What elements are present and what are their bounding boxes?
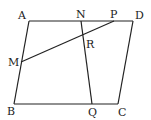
- geometry-diagram: A N P D R M B Q C: [0, 0, 151, 120]
- label-m: M: [8, 56, 19, 69]
- label-a: A: [17, 9, 27, 22]
- label-r: R: [86, 38, 95, 51]
- label-p: P: [110, 8, 118, 21]
- parallelogram-abcd: [14, 21, 133, 104]
- segment-dc: [118, 21, 133, 104]
- label-n: N: [76, 8, 86, 21]
- segment-mp: [21, 21, 114, 62]
- label-b: B: [7, 105, 15, 118]
- label-d: D: [135, 9, 144, 22]
- label-c: C: [118, 106, 126, 119]
- label-q: Q: [88, 106, 97, 119]
